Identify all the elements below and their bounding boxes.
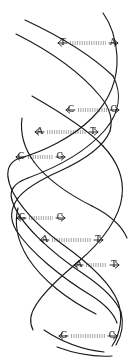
backbone-strand-a-segment-4 [12, 200, 121, 312]
minor-strand-g-segment-1 [44, 330, 104, 352]
backbone-strand-b-segment-3 [8, 177, 118, 302]
inner-strand-d-segment-3 [36, 196, 122, 305]
base-pair-layer: TACGATCGGCATATGC [16, 37, 119, 340]
minor-strand-e-segment-2 [34, 162, 92, 206]
base-pair-rung: CG [66, 104, 119, 114]
base-pair-rung: AT [35, 126, 98, 136]
inner-strand-c-segment-4 [16, 230, 117, 323]
inner-strand-d-segment-2 [103, 146, 122, 196]
backbone-strand-b-segment-1 [20, 13, 117, 158]
base-pair-rung: AT [74, 259, 119, 269]
backbone-strand-a-segment-1 [25, 20, 113, 76]
helix-minor-strand-g [44, 330, 112, 356]
base-pair-rung: GC [59, 330, 117, 340]
minor-strand-e-segment-3 [92, 206, 127, 238]
inner-strand-c-segment-1 [16, 34, 111, 131]
dna-double-helix-figure: TACGATCGGCATATGC [0, 0, 134, 357]
base-pair-rung: GC [17, 212, 65, 222]
base-pair-rung: AT [40, 234, 103, 244]
dna-diagram-canvas: TACGATCGGCATATGC [0, 0, 134, 357]
minor-strand-f-segment-2 [28, 258, 96, 314]
base-pair-rung: CG [16, 151, 65, 161]
inner-strand-d-segment-4 [31, 305, 36, 330]
inner-strand-c-segment-2 [18, 131, 110, 198]
